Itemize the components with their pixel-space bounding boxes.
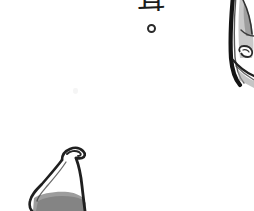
bottle-cap-inner-curl [67, 151, 81, 156]
faint-speck-artifact [73, 88, 78, 94]
figure-contour-mid [241, 30, 254, 36]
bottle-shape-lower-left [0, 0, 254, 211]
manga-page-fragment: 茸 [0, 0, 254, 211]
figure-loop-shape [239, 46, 252, 57]
vertical-dialogue-text: 茸 [133, 0, 169, 48]
panel-edge-illustration-right [0, 0, 254, 211]
panel-border-inner-line [234, 0, 244, 83]
panel-bottom-tone [238, 70, 254, 88]
figure-tone-mass-dark [244, 2, 253, 36]
bottle-neck-outline [62, 148, 85, 160]
bottle-body-right-outline [76, 158, 85, 211]
dialogue-character: 茸 [137, 0, 166, 16]
japanese-period-icon [147, 24, 156, 33]
bottle-body-outline [30, 160, 62, 211]
bottle-base-shadow [33, 192, 85, 211]
figure-tone-mass [239, 0, 254, 58]
figure-sweep-line [233, 60, 254, 76]
bottle-inner-contour [37, 162, 66, 201]
panel-border-line [231, 0, 240, 85]
bottle-base-shadow-soft [36, 196, 86, 211]
figure-sweep-line-secondary [236, 66, 254, 80]
figure-contour-upper [243, 0, 252, 34]
figure-loop-inner-tick [243, 50, 249, 52]
